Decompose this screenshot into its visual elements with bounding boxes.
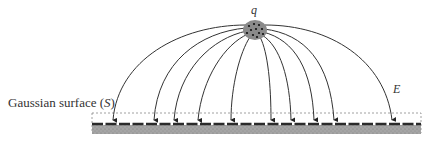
- field-line: [231, 37, 250, 120]
- point-charge: [243, 20, 267, 40]
- charge-label: q: [251, 3, 257, 17]
- field-label: E: [392, 82, 401, 96]
- charged-plate: [92, 124, 421, 134]
- gaussian-surface-label: Gaussian surface (S): [8, 95, 115, 110]
- field-line: [262, 35, 291, 120]
- field-line: [265, 25, 392, 120]
- gauss-law-diagram: q E Gaussian surface (S): [0, 0, 436, 143]
- field-line: [198, 34, 248, 120]
- field-line: [113, 25, 246, 120]
- field-line: [260, 37, 271, 120]
- field-line: [264, 29, 334, 120]
